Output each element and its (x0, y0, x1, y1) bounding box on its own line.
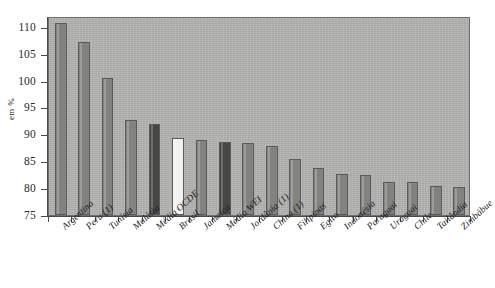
bar-peru (78, 42, 90, 215)
y-tick (41, 55, 48, 56)
bar-highlight (151, 125, 153, 214)
y-tick-label: 80 (6, 183, 36, 195)
plot-area (48, 17, 470, 216)
y-tick (41, 135, 48, 136)
bar-highlight (57, 24, 59, 214)
bar-jamaica (196, 140, 208, 215)
x-tick (48, 217, 49, 222)
y-tick-label: 110 (6, 22, 36, 34)
bar-highlight (338, 175, 340, 214)
y-tick (41, 189, 48, 190)
bar-argentina (55, 23, 67, 215)
bar-highlight (80, 43, 82, 214)
y-tick-label: 105 (6, 49, 36, 61)
bar-highlight (127, 121, 129, 214)
bar-tun-sia (102, 78, 114, 215)
y-tick-label: 100 (6, 76, 36, 88)
bar-tail-ndia (430, 186, 442, 215)
bar-mal-sia (125, 120, 137, 215)
bar-indon-sia (336, 174, 348, 215)
y-axis-line (47, 17, 48, 217)
y-tick-label: 90 (6, 129, 36, 141)
y-tick (41, 162, 48, 163)
y-tick (41, 108, 48, 109)
y-tick-label: 85 (6, 156, 36, 168)
bar-highlight (104, 79, 106, 214)
bar-highlight (198, 141, 200, 214)
y-tick (41, 28, 48, 29)
y-tick-label: 75 (6, 210, 36, 222)
y-tick (41, 82, 48, 83)
y-axis-title: em % (6, 89, 16, 129)
bar-highlight (432, 187, 434, 214)
